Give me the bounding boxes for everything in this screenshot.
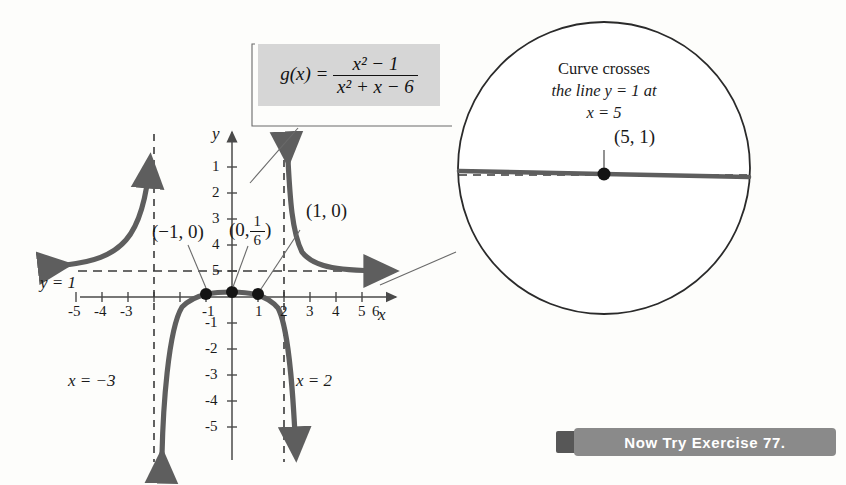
formula-fraction: x² − 1 x² + x − 6	[333, 54, 418, 97]
inset-caption-line3: x = 5	[504, 102, 704, 124]
intercept-points	[200, 286, 264, 300]
leader-0-onesixth	[233, 246, 248, 287]
xtick-label--5: -5	[68, 303, 81, 320]
ytick-label--2: -2	[205, 340, 218, 357]
ytick-label--4: -4	[205, 392, 218, 409]
point-1-0	[252, 288, 264, 300]
ytick-label--3: -3	[205, 366, 218, 383]
xtick-label-4: 4	[332, 303, 340, 320]
figure-canvas: g(x) = x² − 1 x² + x − 6 -5 -4 -3 -1 1 2…	[0, 0, 846, 485]
ytick-label-4: 4	[212, 236, 220, 253]
inset-caption: Curve crosses the line y = 1 at x = 5	[504, 58, 704, 123]
y-axis-label: y	[212, 124, 220, 144]
ytick-label-3: 3	[212, 210, 220, 227]
ytick-label-1: 1	[212, 158, 220, 175]
point-label-0-onesixth-prefix: (0,	[229, 219, 250, 240]
formula-numerator: x² − 1	[333, 54, 418, 76]
xtick-label--3: -3	[120, 303, 133, 320]
point-label-fraction: 16	[250, 214, 266, 249]
xtick-label-5: 5	[358, 303, 366, 320]
point-neg1-0	[200, 288, 212, 300]
point-label-fraction-den: 6	[250, 232, 266, 249]
xtick-label-3: 3	[306, 303, 314, 320]
ytick-label-5: 5	[212, 262, 220, 279]
banner-label: Now Try Exercise 77.	[624, 434, 785, 451]
point-label-0-onesixth-suffix: )	[265, 219, 271, 240]
point-label-fraction-num: 1	[250, 214, 266, 232]
curve-left-branch	[66, 160, 150, 265]
x-axis-label: x	[378, 305, 386, 325]
point-label-1-0: (1, 0)	[306, 200, 347, 222]
point-label-0-onesixth: (0,16)	[229, 214, 271, 249]
inset-caption-line1: Curve crosses	[504, 58, 704, 80]
xtick-label-1: 1	[255, 303, 263, 320]
ytick-label--5: -5	[205, 418, 218, 435]
xtick-label-2: 2	[280, 303, 288, 320]
formula-box: g(x) = x² − 1 x² + x − 6	[258, 44, 440, 106]
xtick-label--4: -4	[94, 303, 107, 320]
asymptote-lines	[78, 134, 392, 462]
label-vertical-asymptote-left: x = −3	[68, 371, 116, 391]
label-vertical-asymptote-right: x = 2	[296, 371, 332, 391]
point-0-onesixth	[226, 286, 238, 298]
formula-lhs-text: g(x) =	[280, 62, 328, 83]
formula-lhs: g(x) = x² − 1 x² + x − 6	[280, 54, 418, 97]
label-horizontal-asymptote: y = 1	[40, 273, 76, 293]
inset-point-5-1	[598, 168, 611, 181]
ytick-label-2: 2	[212, 184, 220, 201]
leader-neg1-0	[188, 245, 206, 288]
banner-body[interactable]: Now Try Exercise 77.	[574, 428, 836, 456]
ytick-label--1: -1	[205, 314, 218, 331]
formula-denominator: x² + x − 6	[333, 76, 418, 97]
curve-middle-branch	[162, 292, 296, 455]
inset-point-label: (5, 1)	[614, 126, 655, 148]
point-label-neg1-0: (−1, 0)	[152, 221, 204, 243]
inset-caption-line2: the line y = 1 at	[504, 80, 704, 102]
